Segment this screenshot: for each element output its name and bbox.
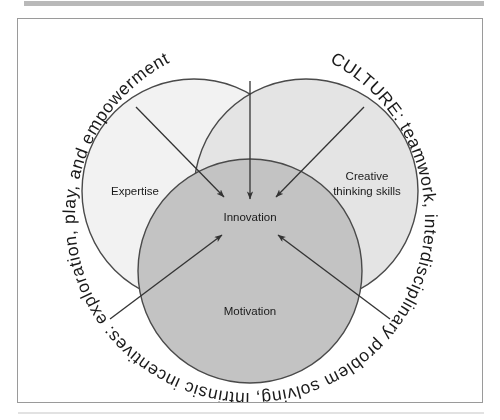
top-scan-rule xyxy=(24,1,484,6)
label-expertise: Expertise xyxy=(111,185,159,197)
bottom-scan-rule xyxy=(18,412,484,414)
label-innovation: Innovation xyxy=(223,211,276,223)
figure-page: CULTURE: teamwork, interdisciplinary pro… xyxy=(0,0,500,420)
label-motivation: Motivation xyxy=(224,305,276,317)
label-creative-line1: Creative xyxy=(346,170,389,182)
venn-diagram: CULTURE: teamwork, interdisciplinary pro… xyxy=(18,19,482,402)
label-creative-line2: thinking skills xyxy=(333,185,401,197)
figure-panel: CULTURE: teamwork, interdisciplinary pro… xyxy=(17,18,483,403)
